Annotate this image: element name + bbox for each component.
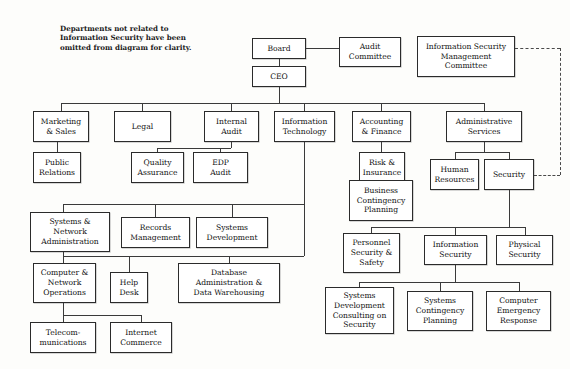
connector-ceo-bus: [61, 103, 484, 104]
node-security[interactable]: Security: [484, 159, 534, 190]
dashed-connector-ismc-to-security-h2: [534, 175, 560, 176]
node-risk-insurance[interactable]: Risk & Insurance: [359, 152, 405, 183]
node-legal[interactable]: Legal: [114, 111, 171, 142]
node-telecommunications[interactable]: Telecom- munications: [30, 322, 96, 353]
node-computer-network-operations[interactable]: Computer & Network Operations: [33, 263, 96, 303]
connector-internal-audit-stem: [231, 142, 232, 148]
connector-it-bus2-v: [304, 204, 305, 256]
node-marketing-sales[interactable]: Marketing & Sales: [33, 111, 89, 142]
node-audit-committee[interactable]: Audit Committee: [339, 37, 401, 67]
node-records-management[interactable]: Records Management: [121, 217, 190, 248]
node-personnel-security-safety[interactable]: Personnel Security & Safety: [343, 233, 400, 273]
node-help-desk[interactable]: Help Desk: [110, 272, 148, 303]
connector-admin-stem: [484, 142, 485, 152]
node-quality-assurance[interactable]: Quality Assurance: [131, 152, 184, 183]
node-administrative-services[interactable]: Administrative Services: [446, 111, 522, 142]
node-systems-development[interactable]: Systems Development: [196, 217, 268, 248]
node-database-administration[interactable]: Database Administration & Data Warehousi…: [178, 263, 280, 303]
connector-drop-records: [155, 204, 156, 218]
node-internet-commerce[interactable]: Internet Commerce: [110, 322, 172, 353]
connector-it-bus2: [63, 256, 304, 257]
connector-infosec-stem: [455, 265, 456, 282]
connector-drop-sysdev: [232, 204, 233, 218]
diagram-note: Departments not related to Information S…: [60, 24, 192, 52]
node-computer-emergency-response[interactable]: Computer Emergency Response: [486, 291, 551, 331]
connector-cno-stem: [63, 303, 64, 315]
node-board[interactable]: Board: [252, 38, 306, 59]
dashed-connector-ismc-to-security-v: [560, 48, 561, 175]
org-chart-canvas: Departments not related to Information S…: [0, 0, 570, 369]
connector-admin-bus: [455, 152, 509, 153]
node-accounting-finance[interactable]: Accounting & Finance: [352, 111, 411, 142]
node-edp-audit[interactable]: EDP Audit: [193, 152, 248, 183]
node-systems-contingency-planning[interactable]: Systems Contingency Planning: [407, 291, 473, 331]
connector-bottom-bus: [63, 315, 141, 316]
node-business-contingency-planning[interactable]: Business Contingency Planning: [349, 180, 413, 221]
node-information-security[interactable]: Information Security: [424, 235, 487, 265]
node-systems-network-administration[interactable]: Systems & Network Administration: [30, 212, 110, 252]
node-ceo[interactable]: CEO: [252, 66, 306, 87]
node-physical-security[interactable]: Physical Security: [496, 235, 553, 265]
node-internal-audit[interactable]: Internal Audit: [204, 111, 259, 142]
connector-board-to-audit-committee: [306, 48, 339, 49]
connector-security-stem: [509, 190, 510, 227]
connector-security-bus: [371, 227, 525, 228]
connector-it-stem: [304, 142, 305, 204]
node-public-relations[interactable]: Public Relations: [33, 152, 81, 183]
node-ismc[interactable]: Information Security Management Committe…: [417, 36, 515, 77]
connector-ceo-down: [279, 87, 280, 103]
connector-it-bus: [63, 204, 304, 205]
connector-board-to-ceo: [279, 59, 280, 66]
node-information-technology[interactable]: Information Technology: [274, 111, 335, 142]
connector-drop-helpdesk: [129, 256, 130, 273]
dashed-connector-ismc-to-security-h1: [515, 48, 560, 49]
node-systems-development-consulting[interactable]: Systems Development Consulting on Securi…: [325, 287, 394, 334]
connector-infosec-bus: [359, 282, 519, 283]
node-human-resources[interactable]: Human Resources: [430, 159, 479, 190]
